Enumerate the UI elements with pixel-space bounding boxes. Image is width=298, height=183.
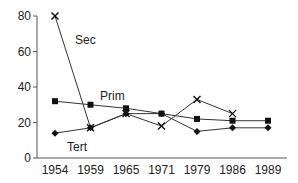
series-label-prim: Prim (100, 89, 125, 103)
data-point-sec (229, 110, 236, 117)
series-labels: Sec Prim Tert (67, 33, 125, 154)
x-tick-label: 1965 (113, 163, 140, 177)
x-ticks: 1954195919651971197919861989 (42, 163, 282, 177)
data-point-prim (52, 98, 58, 104)
x-tick-label: 1979 (184, 163, 211, 177)
y-ticks: 020406080 (18, 9, 37, 165)
data-point-sec (158, 123, 165, 130)
data-point-tert (52, 130, 59, 137)
data-point-prim (265, 118, 271, 124)
data-point-prim (194, 116, 200, 122)
data-point-sec (52, 13, 59, 20)
x-tick-label: 1986 (219, 163, 246, 177)
data-point-tert (229, 124, 236, 131)
y-tick-label: 20 (18, 116, 32, 130)
series-label-sec: Sec (75, 33, 96, 47)
x-tick-label: 1954 (42, 163, 69, 177)
line-chart: 020406080 1954195919651971197919861989 S… (0, 0, 298, 183)
data-point-prim (88, 102, 94, 108)
series-markers (52, 13, 272, 137)
data-point-prim (230, 118, 236, 124)
x-tick-label: 1971 (148, 163, 175, 177)
y-tick-label: 0 (24, 151, 31, 165)
y-tick-label: 60 (18, 45, 32, 59)
y-tick-label: 40 (18, 80, 32, 94)
data-point-tert (265, 124, 272, 131)
y-tick-label: 80 (18, 9, 32, 23)
x-tick-label: 1959 (77, 163, 104, 177)
series-label-tert: Tert (67, 140, 88, 154)
data-point-tert (194, 128, 201, 135)
data-point-sec (194, 96, 201, 103)
x-tick-label: 1989 (255, 163, 282, 177)
